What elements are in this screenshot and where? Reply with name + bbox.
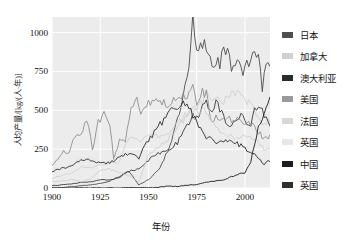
legend-item[interactable]: 中国: [282, 153, 351, 175]
x-tick-label: 1975: [175, 192, 219, 202]
y-tick-label: 750: [14, 66, 48, 76]
legend-color-swatch: [282, 32, 293, 38]
y-tick-label: 250: [14, 144, 48, 154]
legend-item-label: 英国: [300, 135, 318, 149]
legend-item-label: 美国: [300, 92, 318, 106]
legend-item[interactable]: 法国: [282, 110, 351, 132]
plot-area: [52, 17, 270, 188]
legend-item[interactable]: 日本: [282, 24, 351, 46]
legend-color-swatch: [282, 96, 293, 102]
plot-svg: [52, 17, 270, 188]
legend-item-label: 英国: [300, 178, 318, 192]
legend-item[interactable]: 英国: [282, 175, 351, 197]
x-tick-label: 1900: [30, 192, 74, 202]
y-tick-label: 1000: [14, 28, 48, 38]
legend-color-swatch: [282, 53, 293, 59]
x-tick-label: 2000: [223, 192, 267, 202]
legend-item-label: 日本: [300, 28, 318, 42]
x-axis-label: 年份: [52, 219, 270, 233]
legend-item-label: 中国: [300, 157, 318, 171]
y-axis-ticks: 02505007501000: [12, 0, 48, 241]
x-tick-label: 1950: [126, 192, 170, 202]
series-line: [52, 101, 270, 172]
chart-legend: 日本加拿大澳大利亚美国法国英国中国英国: [282, 24, 351, 196]
legend-item[interactable]: 澳大利亚: [282, 67, 351, 89]
legend-item[interactable]: 美国: [282, 89, 351, 111]
legend-item[interactable]: 英国: [282, 132, 351, 154]
y-tick-label: 500: [14, 105, 48, 115]
legend-color-swatch: [282, 182, 293, 188]
legend-color-swatch: [282, 118, 293, 124]
legend-item-label: 法国: [300, 114, 318, 128]
legend-color-swatch: [282, 139, 293, 145]
x-tick-label: 1925: [78, 192, 122, 202]
legend-color-swatch: [282, 161, 293, 167]
legend-item[interactable]: 加拿大: [282, 46, 351, 68]
legend-color-swatch: [282, 75, 293, 81]
chart-figure: 人均产量/[kg/(人·年)] 02505007501000 190019251…: [0, 0, 351, 241]
legend-item-label: 加拿大: [300, 49, 327, 63]
legend-item-label: 澳大利亚: [300, 71, 336, 85]
